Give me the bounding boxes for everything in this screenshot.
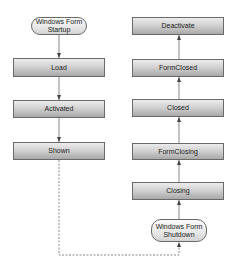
event-label: Shown (48, 147, 69, 155)
shutdown-label-line2: Shutdown (163, 231, 194, 239)
event-label: Closing (166, 187, 189, 195)
event-shown: Shown (13, 142, 105, 160)
arrowhead-icon (177, 160, 181, 165)
arrowhead-icon (177, 117, 181, 122)
lifecycle-diagram: Windows Form Startup Load Activated Show… (0, 0, 239, 268)
event-load: Load (13, 58, 105, 77)
event-closed: Closed (132, 99, 224, 117)
event-formclosed: FormClosed (132, 59, 224, 77)
startup-label-line1: Windows Form (36, 18, 83, 26)
arrowhead-icon (177, 242, 181, 247)
event-label: Deactivate (161, 22, 194, 30)
event-label: Load (51, 64, 67, 72)
startup-label-line2: Startup (48, 26, 71, 34)
event-label: Activated (45, 105, 74, 113)
arrowhead-icon (177, 35, 181, 40)
event-closing: Closing (132, 182, 224, 200)
event-formclosing: FormClosing (132, 143, 224, 160)
event-deactivate: Deactivate (132, 17, 224, 35)
startup-node: Windows Form Startup (31, 17, 87, 35)
event-activated: Activated (13, 100, 105, 118)
event-label: Closed (167, 104, 189, 112)
event-label: FormClosed (159, 64, 197, 72)
event-label: FormClosing (158, 148, 198, 156)
arrowhead-icon (177, 77, 181, 82)
shutdown-label-line1: Windows Form (156, 223, 203, 231)
arrowhead-icon (177, 200, 181, 205)
shutdown-node: Windows Form Shutdown (151, 219, 207, 242)
